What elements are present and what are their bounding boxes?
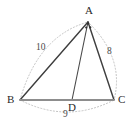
solid-segment-group xyxy=(20,22,114,100)
segment-ad-cevian xyxy=(72,22,88,100)
vertex-label-b: B xyxy=(7,94,14,105)
geometry-figure: A B C D 10 8 9 xyxy=(0,0,130,126)
segment-ac xyxy=(88,22,114,100)
side-length-ab: 10 xyxy=(36,43,46,53)
side-length-ac: 8 xyxy=(107,47,112,57)
vertex-label-d: D xyxy=(68,102,76,113)
dotted-arc-group xyxy=(20,22,117,112)
segment-ba xyxy=(20,22,88,100)
vertex-label-c: C xyxy=(118,94,125,105)
triangle-diagram-canvas xyxy=(0,0,130,126)
vertex-label-a: A xyxy=(85,5,93,16)
side-length-bc: 9 xyxy=(63,110,68,120)
